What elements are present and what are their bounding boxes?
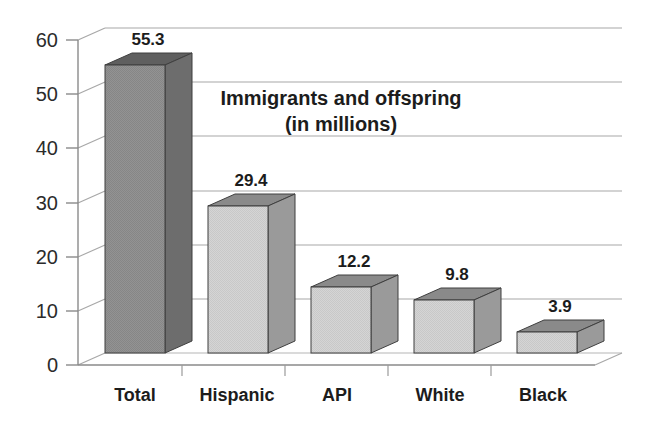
chart-title: Immigrants and offspring (220, 87, 461, 109)
value-label-white: 9.8 (445, 265, 469, 284)
y-tick-label-20: 20 (36, 246, 58, 268)
y-tick-label-50: 50 (36, 83, 58, 105)
y-tick-label-60: 60 (36, 29, 58, 51)
bar-hispanic-front-face (208, 206, 268, 353)
chart-container: 60 50 40 30 20 10 0 (0, 0, 647, 424)
bar-white-front-face (414, 300, 474, 353)
bar-api-front-face (311, 287, 371, 353)
value-label-total: 55.3 (131, 30, 164, 49)
bar-hispanic[interactable] (208, 194, 295, 353)
y-tick-label-40: 40 (36, 137, 58, 159)
category-label-black: Black (519, 385, 568, 405)
y-tick-label-10: 10 (36, 300, 58, 322)
chart-subtitle: (in millions) (285, 113, 397, 135)
bar-white-side-face (474, 288, 501, 353)
bar-api-side-face (371, 275, 398, 353)
y-tick-label-30: 30 (36, 192, 58, 214)
value-label-black: 3.9 (548, 297, 572, 316)
category-label-total: Total (114, 385, 156, 405)
bar-black-front-face (517, 332, 577, 353)
bar-api[interactable] (311, 275, 398, 353)
bar-total-side-face (165, 53, 192, 353)
y-tick-label-0: 0 (47, 354, 58, 376)
value-label-hispanic: 29.4 (234, 171, 268, 190)
chart-background (0, 0, 647, 424)
category-label-white: White (416, 385, 465, 405)
bar-hispanic-side-face (268, 194, 295, 353)
value-label-api: 12.2 (337, 252, 370, 271)
bar-chart-3d: 60 50 40 30 20 10 0 (0, 0, 647, 424)
bar-total-front-face (105, 65, 165, 353)
category-label-api: API (322, 385, 352, 405)
bar-white[interactable] (414, 288, 501, 353)
bar-total[interactable] (105, 53, 192, 353)
category-label-hispanic: Hispanic (199, 385, 274, 405)
